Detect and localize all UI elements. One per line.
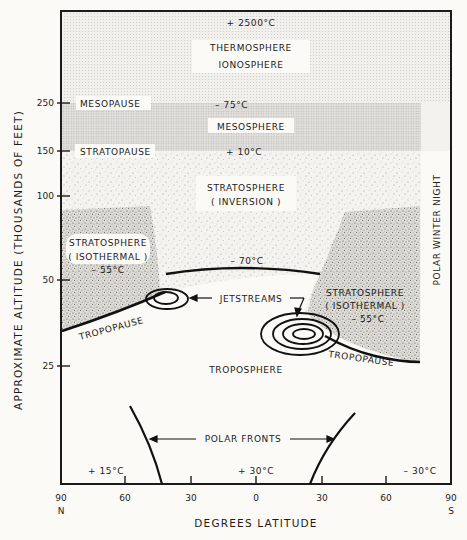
x-tick-90s: 90 [445,493,457,503]
stratosphere-isothermal-right-temp: – 55°C [351,314,384,324]
y-tick-250: 250 [37,98,54,108]
troposphere-label: TROPOSPHERE [208,365,282,375]
jetstreams-label: JETSTREAMS [219,294,283,304]
x-tick-0: 0 [253,493,259,503]
stratosphere-isothermal-left-sublabel: ( ISOTHERMAL ) [68,252,148,262]
y-tick-150: 150 [37,146,54,156]
surface-temp-south: – 30°C [403,466,436,476]
stratosphere-isothermal-right-sublabel: ( ISOTHERMAL ) [325,301,405,311]
x-tick-30n: 30 [185,493,197,503]
stratosphere-isothermal-right-label: STRATOSPHERE [326,288,404,298]
stratosphere-isothermal-left-label: STRATOSPHERE [69,238,147,248]
stratosphere-inversion-label: STRATOSPHERE [207,183,285,193]
thermosphere-label: THERMOSPHERE [209,43,292,53]
stratosphere-inversion-sublabel: ( INVERSION ) [211,197,281,207]
y-tick-50: 50 [43,275,55,285]
x-tick-60n: 60 [119,493,131,503]
mesopause-temp: – 75°C [215,100,248,110]
stratopause-label: STRATOPAUSE [80,147,151,157]
surface-temp-equator: + 30°C [238,466,274,476]
x-axis-title: DEGREES LATITUDE [194,517,317,529]
x-tick-60s: 60 [380,493,392,503]
polar-winter-night-label: POLAR WINTER NIGHT [432,174,442,285]
tropopause-equator-temp: – 70°C [230,256,263,266]
x-tick-north: N [58,506,65,516]
y-axis-title: APPROXIMATE ALTITUDE (THOUSANDS OF FEET) [12,110,24,410]
atmosphere-diagram: 250 150 100 50 25 90 N 60 30 0 30 60 90 … [0,0,467,540]
x-tick-30s: 30 [316,493,328,503]
mesosphere-label: MESOSPHERE [217,122,285,132]
surface-temp-north: + 15°C [88,466,124,476]
thermosphere-temp: + 2500°C [227,18,276,28]
stratosphere-isothermal-left-temp: – 55°C [91,265,124,275]
stratopause-temp: + 10°C [226,147,262,157]
y-tick-100: 100 [37,191,54,201]
x-tick-90n: 90 [55,493,67,503]
y-tick-25: 25 [43,361,54,371]
polar-night-strip-upper [421,103,451,151]
ionosphere-label: IONOSPHERE [218,60,283,70]
mesopause-label: MESOPAUSE [80,99,141,109]
polar-fronts-label: POLAR FRONTS [205,434,282,444]
x-tick-south: S [448,506,454,516]
